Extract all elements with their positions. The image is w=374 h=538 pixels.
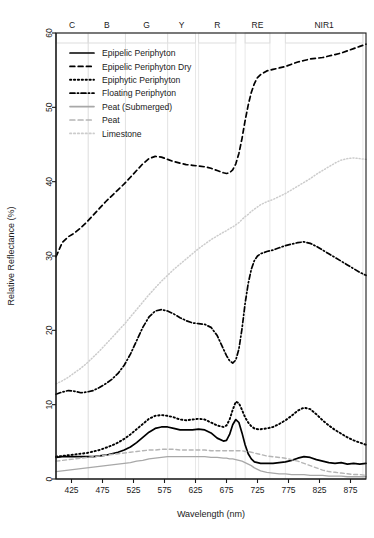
band-label-b: B <box>104 20 110 30</box>
y-axis-title: Relative Reflectance (%) <box>6 206 16 305</box>
y-tick-label: 40 <box>44 177 54 187</box>
legend-item: Epipelic Periphyton <box>70 48 176 58</box>
band-box-group <box>56 33 363 479</box>
legend-label: Floating Periphyton <box>102 88 176 98</box>
series-line-epiphytic-periphyton <box>56 402 366 457</box>
legend-label: Peat <box>102 115 120 125</box>
x-tick-label: 725 <box>250 485 264 495</box>
x-tick-label: 425 <box>64 485 78 495</box>
y-tick-label: 50 <box>44 102 54 112</box>
band-label-nir1: NIR1 <box>314 20 334 30</box>
y-tick-label: 30 <box>44 251 54 261</box>
legend-item: Peat <box>70 115 120 125</box>
x-tick-label: 825 <box>312 485 326 495</box>
x-tick-label: 575 <box>157 485 171 495</box>
y-tick-label: 0 <box>44 476 54 481</box>
x-tick-label: 775 <box>281 485 295 495</box>
x-tick-label: 525 <box>126 485 140 495</box>
series-line-peat <box>56 449 366 475</box>
x-axis-title: Wavelength (nm) <box>177 509 245 519</box>
band-label-c: C <box>69 20 75 30</box>
band-label-r: R <box>214 20 220 30</box>
band-label-group: CBGYRRENIR1 <box>69 20 334 30</box>
x-tick-label: 875 <box>343 485 357 495</box>
legend-label: Epipelic Periphyton <box>102 48 176 58</box>
band-label-g: G <box>143 20 150 30</box>
y-tick-label: 10 <box>44 400 54 410</box>
x-tick-label: 625 <box>188 485 202 495</box>
series-line-floating-periphyton <box>56 242 366 394</box>
legend-label: Peat (Submerged) <box>102 102 172 112</box>
legend-label: Epiphytic Periphyton <box>102 75 181 85</box>
x-tick-label: 475 <box>95 485 109 495</box>
axis-group: 0102030405060425475525575625675725775825… <box>44 28 366 495</box>
legend-item: Limestone <box>70 129 142 139</box>
band-label-re: RE <box>252 20 264 30</box>
x-tick-label: 675 <box>219 485 233 495</box>
legend-label: Limestone <box>102 129 142 139</box>
y-tick-label: 60 <box>44 28 54 38</box>
series-line-limestone <box>56 158 366 384</box>
spectral-reflectance-figure: CBGYRRENIR1 0102030405060425475525575625… <box>0 0 374 538</box>
band-label-y: Y <box>179 20 185 30</box>
y-tick-label: 20 <box>44 325 54 335</box>
reflectance-chart: CBGYRRENIR1 0102030405060425475525575625… <box>0 0 374 538</box>
legend-item: Epiphytic Periphyton <box>70 75 181 85</box>
legend-label: Epipelic Periphyton Dry <box>102 62 192 72</box>
legend-item: Peat (Submerged) <box>70 102 172 112</box>
legend-item: Floating Periphyton <box>70 88 176 98</box>
